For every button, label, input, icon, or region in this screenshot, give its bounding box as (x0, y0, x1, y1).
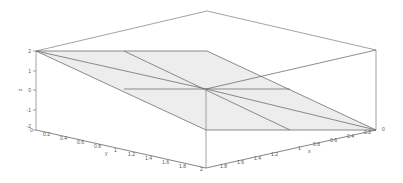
x-tick-label: 0.4 (347, 133, 354, 139)
z-tick-label: 2 (28, 48, 31, 54)
z-axis-label: z (17, 88, 23, 91)
x-tick-label: 0.8 (313, 141, 320, 147)
y-tick-label: 1.6 (162, 159, 169, 165)
y-axis-label: y (105, 150, 108, 156)
y-tick-label: 0.8 (94, 143, 101, 149)
z-tick-label: 1 (28, 68, 31, 74)
x-tick-label: 0.2 (364, 129, 371, 135)
y-tick-label: 1.2 (128, 151, 135, 157)
y-tick-label: 1 (114, 147, 117, 153)
y-tick-label: 0.2 (43, 131, 50, 137)
z-axis: 2 1 0 -1 -2 z (17, 48, 36, 130)
x-tick-label: 0.6 (330, 137, 337, 143)
x-tick-label: 1.6 (237, 159, 244, 165)
x-tick-label: 0 (382, 126, 385, 132)
y-tick-label: 1.4 (145, 155, 152, 161)
x-tick-label: 1.4 (254, 155, 261, 161)
y-tick-label: 1.8 (179, 163, 186, 169)
x-tick-label: 1.2 (271, 151, 278, 157)
z-tick-label: 0 (28, 87, 31, 93)
y-tick-label: 0.4 (60, 135, 67, 141)
surface-plot-3d: 2 1 0 -1 -2 z 0 0.2 0.4 0.6 0.8 1 1.2 1.… (0, 0, 403, 183)
y-tick-label: 0 (30, 127, 33, 133)
x-axis-label: x (308, 148, 311, 154)
z-tick-label: -1 (27, 107, 32, 113)
y-tick-label: 0.6 (77, 139, 84, 145)
x-tick-label: 2 (200, 166, 203, 172)
x-tick-label: 1.8 (220, 163, 227, 169)
y-axis: 0 0.2 0.4 0.6 0.8 1 1.2 1.4 1.6 1.8 y (30, 127, 186, 169)
x-tick-label: 1 (298, 145, 301, 151)
